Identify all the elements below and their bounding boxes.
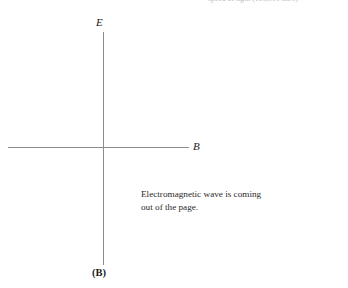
figure-canvas: speed of light (186,000 mi/s) E B (B) El…	[0, 0, 348, 288]
figure-caption-line-1: Electromagnetic wave is coming	[141, 188, 331, 201]
page-header-fragment: speed of light (186,000 mi/s)	[208, 0, 348, 4]
axis-label-b-bottom: (B)	[92, 266, 106, 280]
axis-label-e: E	[96, 15, 103, 29]
figure-caption: Electromagnetic wave is coming out of th…	[141, 188, 331, 214]
electric-field-axis-line	[103, 32, 104, 265]
magnetic-field-axis-line	[8, 147, 189, 148]
figure-caption-line-2: out of the page.	[141, 201, 331, 214]
axis-label-b: B	[193, 139, 200, 153]
